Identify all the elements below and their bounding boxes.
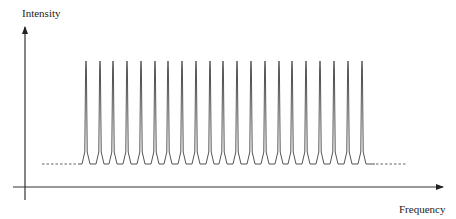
x-axis-label: Frequency bbox=[399, 203, 445, 215]
plot-area bbox=[0, 0, 456, 219]
frequency-comb-diagram: Intensity Frequency bbox=[0, 0, 456, 219]
comb-trace bbox=[78, 61, 375, 164]
y-axis-label: Intensity bbox=[22, 7, 61, 19]
